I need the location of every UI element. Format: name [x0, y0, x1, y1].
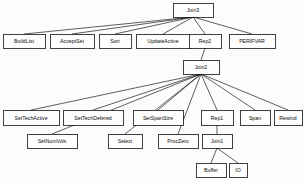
edge-join3-to-sort	[115, 17, 193, 34]
node-label-perifvar: PERIFVAR	[239, 38, 265, 44]
node-setspansize[interactable]: SetSpanSize	[133, 110, 183, 125]
edge-join1-to-io	[217, 148, 238, 163]
node-label-select: Select	[118, 138, 133, 144]
node-label-settechdefered: SetTechDefered	[74, 115, 112, 121]
node-label-join2: Join2	[195, 64, 208, 70]
node-label-io: IO	[235, 167, 241, 173]
node-select[interactable]: Select	[108, 134, 142, 148]
edge-join1-to-buffer	[211, 148, 217, 163]
node-io[interactable]: IO	[229, 163, 247, 177]
node-join1[interactable]: Join1	[202, 134, 232, 148]
node-join2[interactable]: Join2	[183, 60, 219, 74]
node-label-proczero: ProcZero	[167, 138, 189, 144]
node-join3[interactable]: Join3	[173, 3, 213, 17]
node-settechdefered[interactable]: SetTechDefered	[63, 110, 123, 125]
node-label-setspansize: SetSpanSize	[143, 115, 173, 121]
node-label-sort: Sort	[110, 38, 120, 44]
node-label-buildlist: BuildList	[14, 38, 34, 44]
node-setnumvols[interactable]: SetNumVols	[27, 134, 77, 148]
node-label-rep1: Rep1	[211, 115, 224, 121]
node-updateactive[interactable]: UpdateActive	[136, 34, 190, 48]
edge-join3-to-perifvar	[193, 17, 252, 34]
edge-join3-to-acceptset	[72, 17, 193, 34]
edge-join2-to-settechdefered	[93, 74, 201, 110]
diagram-canvas: Join3BuildListAcceptSetSortUpdateActiveR…	[0, 0, 304, 182]
node-label-setnumvols: SetNumVols	[38, 138, 67, 144]
edge-join2-to-settechactive	[31, 74, 201, 110]
node-label-span: Span	[249, 115, 261, 121]
node-buffer[interactable]: Buffer	[196, 163, 226, 177]
node-label-rep2: Rep2	[199, 38, 212, 44]
node-label-join1: Join1	[211, 138, 224, 144]
node-label-acceptset: AcceptSet	[60, 38, 84, 44]
node-settechactive[interactable]: SetTechActive	[3, 110, 59, 125]
node-rep1[interactable]: Rep1	[201, 110, 233, 125]
edge-join3-to-rep2	[193, 17, 205, 34]
node-label-updateactive: UpdateActive	[147, 38, 178, 44]
node-label-buffer: Buffer	[204, 167, 218, 173]
node-label-join3: Join3	[187, 7, 200, 13]
node-span[interactable]: Span	[240, 110, 270, 125]
edge-join2-to-rewind	[201, 74, 288, 110]
node-rewind[interactable]: Rewind	[274, 110, 302, 125]
node-buildlist[interactable]: BuildList	[3, 34, 45, 48]
edge-join2-to-setspansize	[158, 74, 201, 110]
node-acceptset[interactable]: AcceptSet	[50, 34, 94, 48]
node-label-rewind: Rewind	[279, 115, 297, 121]
node-label-settechactive: SetTechActive	[14, 115, 47, 121]
node-sort[interactable]: Sort	[99, 34, 131, 48]
node-rep2[interactable]: Rep2	[189, 34, 221, 48]
node-proczero[interactable]: ProcZero	[158, 134, 198, 148]
graph-svg: Join3BuildListAcceptSetSortUpdateActiveR…	[0, 0, 304, 182]
node-perifvar[interactable]: PERIFVAR	[229, 34, 275, 48]
edge-rep2-to-join2	[201, 48, 205, 60]
